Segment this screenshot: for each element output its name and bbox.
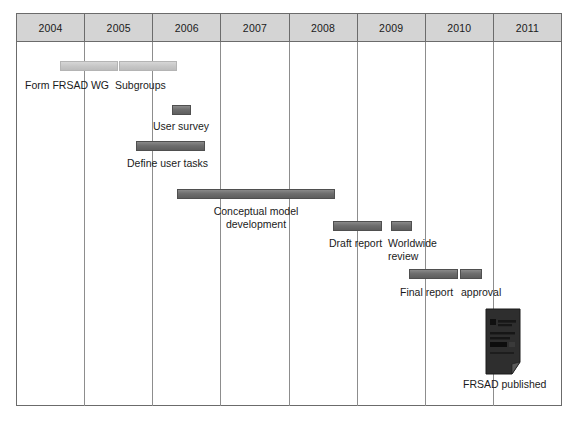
year-header-2005: 2005 — [84, 14, 152, 41]
task-bar-user-survey[interactable] — [172, 105, 191, 115]
year-header-row: 2004 2005 2006 2007 2008 2009 2010 2011 — [17, 14, 561, 42]
task-label-worldwide-review-line1: Worldwide — [388, 237, 437, 250]
year-label: 2010 — [447, 22, 471, 34]
year-header-2010: 2010 — [425, 14, 493, 41]
task-label-approval: approval — [461, 286, 501, 299]
year-label: 2004 — [38, 22, 62, 34]
task-label-user-survey: User survey — [153, 120, 209, 133]
task-label-define-user-tasks: Define user tasks — [127, 157, 208, 170]
year-label: 2005 — [107, 22, 131, 34]
task-bar-final-report[interactable] — [409, 269, 458, 279]
year-header-2009: 2009 — [357, 14, 425, 41]
year-label: 2008 — [311, 22, 335, 34]
task-label-worldwide-review-line2: review — [388, 250, 418, 263]
task-label-conceptual-model-line2: development — [203, 218, 309, 231]
gantt-chart: 2004 2005 2006 2007 2008 2009 2010 2011 — [0, 0, 578, 426]
milestone-label-frsad-published: FRSAD published — [463, 378, 546, 391]
task-bar-draft-report[interactable] — [333, 221, 382, 231]
year-label: 2009 — [379, 22, 403, 34]
year-label: 2011 — [516, 22, 539, 34]
task-label-draft-report: Draft report — [329, 237, 382, 250]
task-label-subgroups: Subgroups — [115, 79, 166, 92]
task-bar-form-frsad-wg[interactable] — [60, 61, 118, 71]
frsad-published-book-icon[interactable] — [485, 308, 521, 375]
task-label-form-frsad-wg: Form FRSAD WG — [25, 79, 109, 92]
year-header-2006: 2006 — [152, 14, 220, 41]
year-label: 2006 — [175, 22, 199, 34]
grid-column-2004 — [17, 42, 84, 406]
task-bar-worldwide-review[interactable] — [391, 221, 412, 231]
task-bar-subgroups[interactable] — [119, 61, 177, 71]
grid-column-2005 — [84, 42, 152, 406]
task-label-final-report: Final report — [400, 286, 453, 299]
year-header-2011: 2011 — [493, 14, 561, 41]
task-bar-approval[interactable] — [460, 269, 482, 279]
grid-column-2010 — [425, 42, 493, 406]
year-header-2004: 2004 — [17, 14, 84, 41]
year-header-2007: 2007 — [220, 14, 288, 41]
task-label-conceptual-model-line1: Conceptual model — [203, 205, 309, 218]
year-header-2008: 2008 — [289, 14, 357, 41]
task-bar-conceptual-model-development[interactable] — [177, 189, 335, 199]
year-label: 2007 — [243, 22, 267, 34]
task-bar-define-user-tasks[interactable] — [136, 141, 205, 151]
